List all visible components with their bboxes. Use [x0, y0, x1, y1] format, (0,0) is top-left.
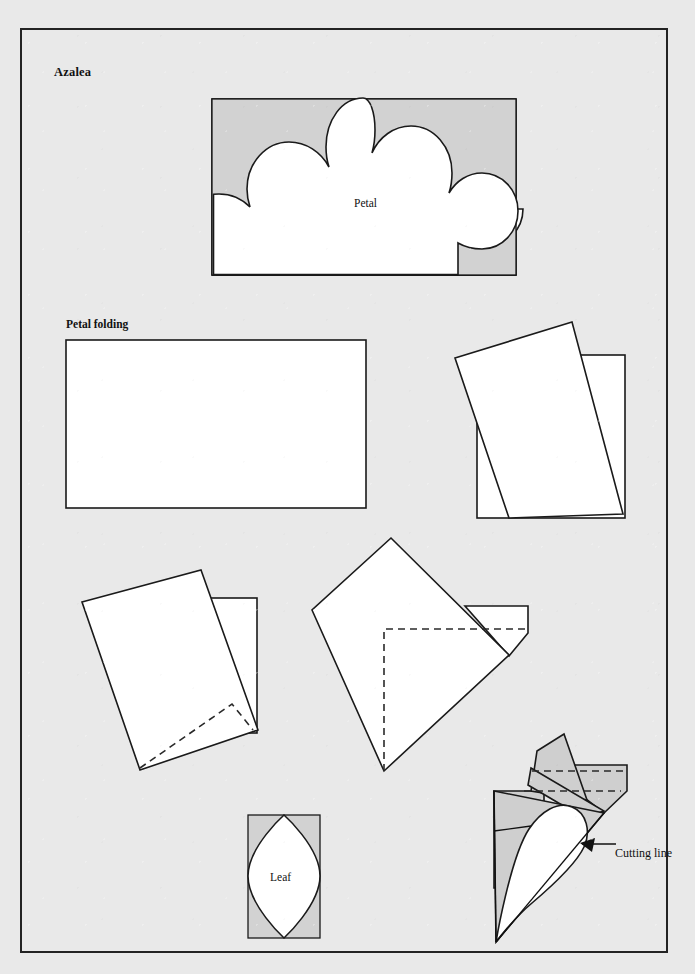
cutting-line-label: Cutting line [615, 846, 672, 861]
leaf-inner-label: Leaf [270, 871, 291, 883]
petal-folding-label: Petal folding [66, 318, 128, 330]
fold-step-1-figure [58, 330, 378, 520]
fold-step-2-figure [442, 310, 642, 535]
petal-inner-label: Petal [354, 197, 377, 209]
page-title: Azalea [54, 65, 91, 80]
cutting-line-figure [484, 728, 695, 953]
petal-template-figure: Petal [192, 80, 542, 295]
fold1-sheet [66, 340, 366, 508]
fold4-kite-body [312, 538, 509, 771]
page-canvas: Azalea Petal Petal folding [0, 0, 695, 974]
leaf-template-figure: Leaf [238, 805, 338, 950]
page-border-frame: Azalea Petal Petal folding [20, 28, 668, 953]
fold-step-3-figure [70, 560, 285, 790]
